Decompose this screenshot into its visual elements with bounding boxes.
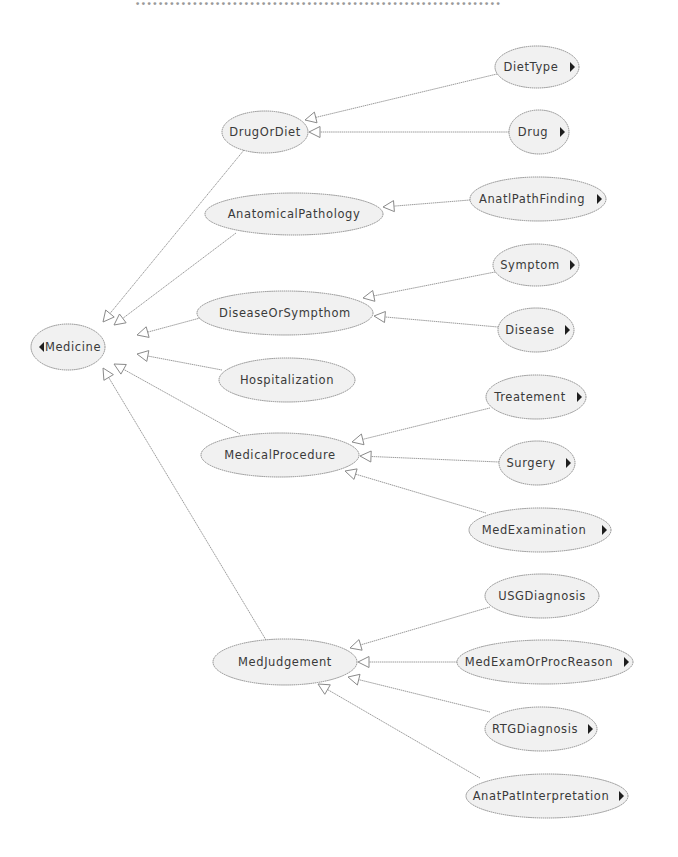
class-node-surgery[interactable]: Surgery xyxy=(499,441,575,485)
subclass-edge-disease-to-diseaseorsympthom xyxy=(374,312,498,328)
class-node-diseaseorsympthom[interactable]: DiseaseOrSympthom xyxy=(197,291,373,335)
edge-line xyxy=(361,607,490,645)
class-node-medicine[interactable]: Medicine xyxy=(31,324,105,370)
node-label: USGDiagnosis xyxy=(498,589,586,603)
edge-line xyxy=(371,456,499,462)
subclass-edge-anatpatinterpretation-to-medjudgement xyxy=(318,684,480,778)
edge-line xyxy=(385,317,498,327)
node-label: MedExamOrProcReason xyxy=(465,655,613,669)
hollow-arrowhead-icon xyxy=(350,640,362,651)
hollow-arrowhead-icon xyxy=(374,312,385,323)
class-node-usgdiagnosis[interactable]: USGDiagnosis xyxy=(485,574,599,618)
class-node-medexamorprocreason[interactable]: MedExamOrProcReason xyxy=(457,640,633,684)
node-label: Drug xyxy=(518,125,549,139)
node-label: Disease xyxy=(505,323,554,337)
subclass-edge-usgdiagnosis-to-medjudgement xyxy=(350,607,490,650)
subclass-edge-anatlpathfinding-to-anatomicalpathology xyxy=(383,200,470,212)
class-node-disease[interactable]: Disease xyxy=(498,308,574,352)
subclass-edge-drugordiet-to-medicine xyxy=(103,150,244,322)
class-node-drug[interactable]: Drug xyxy=(509,110,569,154)
hollow-arrowhead-icon xyxy=(114,364,126,374)
node-layer: MedicineDrugOrDietAnatomicalPathologyDis… xyxy=(31,46,633,818)
node-label: AnatomicalPathology xyxy=(228,207,361,221)
hollow-arrowhead-icon xyxy=(383,201,394,212)
class-node-anatlpathfinding[interactable]: AnatlPathFinding xyxy=(470,177,606,221)
hollow-arrowhead-icon xyxy=(137,351,149,362)
subclass-edge-treatement-to-medicalprocedure xyxy=(352,408,490,445)
ontology-class-graph: MedicineDrugOrDietAnatomicalPathologyDis… xyxy=(0,0,678,857)
subclass-edge-surgery-to-medicalprocedure xyxy=(360,451,499,462)
hollow-arrowhead-icon xyxy=(345,469,357,480)
node-label: Surgery xyxy=(506,456,555,470)
subclass-edge-diettype-to-drugordiet xyxy=(305,74,497,123)
hollow-arrowhead-icon xyxy=(103,310,114,322)
edge-line xyxy=(109,377,266,640)
subclass-edge-medjudgement-to-medicine xyxy=(103,368,266,640)
node-label: Symptom xyxy=(500,258,560,272)
edge-line xyxy=(316,74,497,117)
node-label: RTGDiagnosis xyxy=(492,722,578,736)
hollow-arrowhead-icon xyxy=(352,434,364,445)
node-label: Treatement xyxy=(493,390,566,404)
edge-line xyxy=(110,150,244,313)
class-node-anatomicalpathology[interactable]: AnatomicalPathology xyxy=(205,193,383,235)
subclass-edge-medexamination-to-medicalprocedure xyxy=(345,469,486,513)
edge-line xyxy=(374,272,495,296)
class-node-anatpatinterpretation[interactable]: AnatPatInterpretation xyxy=(466,774,628,818)
hollow-arrowhead-icon xyxy=(305,112,317,123)
hollow-arrowhead-icon xyxy=(137,327,149,338)
subclass-edge-hospitalization-to-medicine xyxy=(137,351,222,370)
node-label: MedJudgement xyxy=(238,655,332,669)
edge-line xyxy=(148,356,222,370)
hollow-arrowhead-icon xyxy=(318,684,330,694)
node-label: AnatlPathFinding xyxy=(479,192,585,206)
subclass-edge-symptom-to-diseaseorsympthom xyxy=(363,272,495,301)
edge-line xyxy=(328,690,480,778)
class-node-medexamination[interactable]: MedExamination xyxy=(469,508,611,552)
class-node-drugordiet[interactable]: DrugOrDiet xyxy=(222,111,308,153)
node-label: MedExamination xyxy=(482,523,587,537)
node-label: DiseaseOrSympthom xyxy=(219,306,351,320)
hollow-arrowhead-icon xyxy=(103,368,113,380)
subclass-edge-medexamorprocreason-to-medjudgement xyxy=(358,657,457,668)
edge-line xyxy=(359,680,490,712)
hollow-arrowhead-icon xyxy=(309,127,320,138)
node-label: AnatPatInterpretation xyxy=(473,789,610,803)
edge-line xyxy=(148,318,200,332)
hollow-arrowhead-icon xyxy=(114,314,126,325)
edge-line xyxy=(356,474,486,513)
hollow-arrowhead-icon xyxy=(358,657,369,668)
node-label: Medicine xyxy=(45,340,101,354)
hollow-arrowhead-icon xyxy=(348,674,360,685)
node-label: MedicalProcedure xyxy=(224,448,335,462)
class-node-rtgdiagnosis[interactable]: RTGDiagnosis xyxy=(485,707,597,751)
node-label: DietType xyxy=(504,60,559,74)
class-node-medicalprocedure[interactable]: MedicalProcedure xyxy=(201,433,359,477)
class-node-medjudgement[interactable]: MedJudgement xyxy=(213,639,357,685)
node-label: Hospitalization xyxy=(240,373,334,387)
subclass-edge-drug-to-drugordiet xyxy=(309,127,509,138)
hollow-arrowhead-icon xyxy=(363,291,375,302)
class-node-diettype[interactable]: DietType xyxy=(495,46,579,88)
class-node-hospitalization[interactable]: Hospitalization xyxy=(219,358,355,402)
class-node-symptom[interactable]: Symptom xyxy=(493,244,579,286)
hollow-arrowhead-icon xyxy=(360,451,371,462)
subclass-edge-rtgdiagnosis-to-medjudgement xyxy=(348,674,490,712)
class-node-treatement[interactable]: Treatement xyxy=(486,375,586,419)
edge-line xyxy=(394,200,470,206)
subclass-edge-diseaseorsympthom-to-medicine xyxy=(137,318,200,337)
node-label: DrugOrDiet xyxy=(229,125,301,139)
edge-line xyxy=(363,408,490,439)
